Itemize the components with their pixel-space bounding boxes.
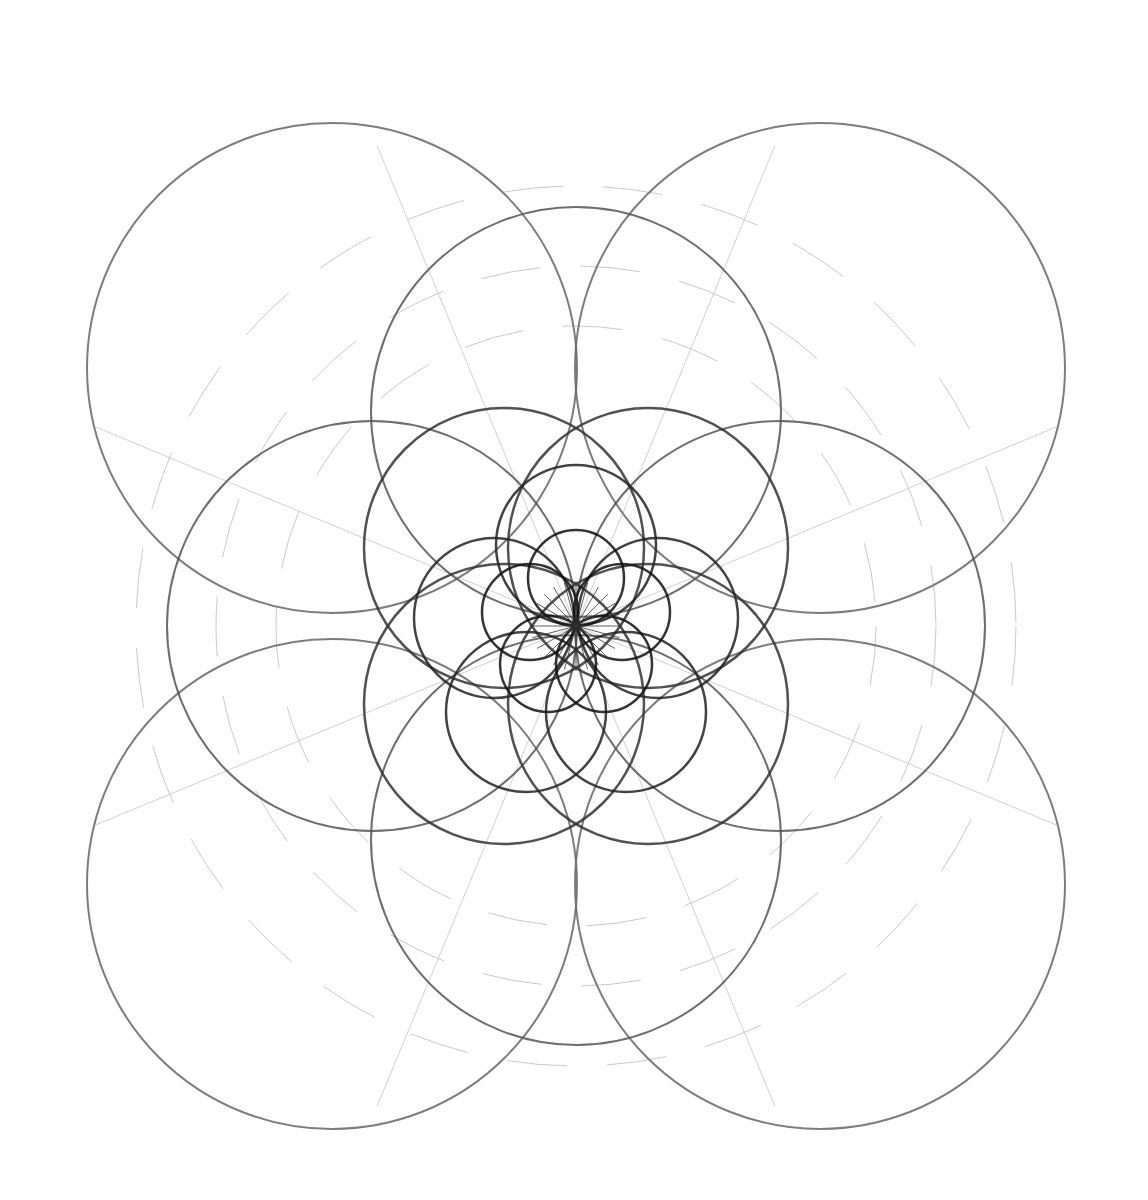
geometric-circle-drawing xyxy=(0,0,1148,1200)
center-spokes xyxy=(531,581,621,671)
